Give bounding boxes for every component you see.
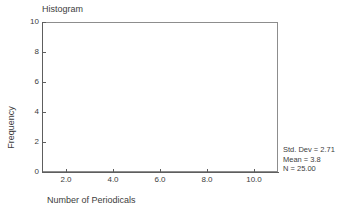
y-tick-label: 10	[13, 18, 39, 26]
plot-frame	[42, 22, 278, 172]
chart-title: Histogram	[42, 4, 83, 15]
x-tick-label: 10.0	[239, 175, 269, 184]
std-dev-label: Std. Dev = 2.71	[283, 145, 335, 155]
statistics-annotation: Std. Dev = 2.71 Mean = 3.8 N = 25.00	[283, 145, 335, 174]
x-tick-label: 8.0	[192, 175, 222, 184]
histogram-chart: Histogram 0246810 2.04.06.08.010.0 Frequ…	[0, 0, 348, 216]
y-tick-mark	[43, 172, 46, 173]
x-tick-mark	[66, 169, 67, 172]
y-axis-line	[42, 22, 43, 173]
x-tick-mark	[160, 169, 161, 172]
y-tick-mark	[43, 142, 46, 143]
y-tick-mark	[43, 52, 46, 53]
x-axis-title: Number of Periodicals	[47, 195, 136, 206]
sample-size-label: N = 25.00	[283, 164, 335, 174]
y-tick-label: 6	[13, 78, 39, 86]
x-axis-line	[42, 172, 279, 173]
x-tick-label: 6.0	[145, 175, 175, 184]
mean-label: Mean = 3.8	[283, 155, 335, 165]
y-tick-mark	[43, 82, 46, 83]
plot-area	[43, 23, 277, 171]
y-tick-label: 0	[13, 168, 39, 176]
y-tick-label: 8	[13, 48, 39, 56]
x-tick-label: 4.0	[98, 175, 128, 184]
x-tick-label: 2.0	[51, 175, 81, 184]
x-tick-mark	[207, 169, 208, 172]
y-tick-label: 2	[13, 138, 39, 146]
y-tick-mark	[43, 112, 46, 113]
x-tick-mark	[113, 169, 114, 172]
x-tick-mark	[254, 169, 255, 172]
y-tick-label: 4	[13, 108, 39, 116]
y-tick-mark	[43, 22, 46, 23]
y-axis-title: Frequency	[6, 93, 17, 163]
